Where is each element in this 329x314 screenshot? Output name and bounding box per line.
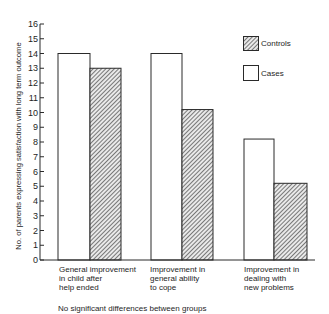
y-tick-label: 7 — [33, 152, 38, 162]
bar-controls-general-improvement — [90, 68, 121, 260]
y-tick-label: 13 — [28, 63, 38, 73]
x-category-label-1: General improvement in child after help … — [59, 265, 137, 292]
legend-label-controls: Controls — [261, 39, 291, 48]
category-label-line: Improvement in — [244, 265, 299, 274]
x-category-label-3: Improvement in dealing with new problems — [244, 265, 299, 292]
bar-cases-ability-to-cope — [151, 54, 182, 261]
y-axis: 0 1 2 3 4 5 6 7 8 9 10 11 12 13 14 15 16 — [28, 19, 44, 265]
bar-cases-new-problems — [244, 139, 274, 260]
bar-cases-general-improvement — [58, 54, 90, 261]
y-axis-title: No. of parents expressing satisfaction w… — [14, 42, 23, 249]
y-tick-label: 2 — [33, 226, 38, 236]
x-category-label-2: Improvement in general ability to cope — [150, 265, 205, 292]
bar-chart: No. of parents expressing satisfaction w… — [0, 0, 329, 314]
bar-controls-ability-to-cope — [182, 110, 213, 260]
bars — [58, 54, 307, 261]
y-tick-label: 16 — [28, 19, 38, 29]
category-label-line: to cope — [150, 283, 177, 292]
y-tick-label: 6 — [33, 167, 38, 177]
y-tick-label: 4 — [33, 196, 38, 206]
chart-annotation: No significant differences between group… — [58, 304, 206, 313]
category-label-line: in child after — [59, 274, 102, 283]
legend-swatch-controls-hatched — [244, 37, 259, 51]
y-tick-label: 3 — [33, 211, 38, 221]
category-label-line: help ended — [59, 283, 99, 292]
y-tick-label: 14 — [28, 49, 38, 59]
category-label-line: new problems — [244, 283, 294, 292]
y-tick-label: 0 — [33, 255, 38, 265]
category-label-line: General improvement — [59, 265, 137, 274]
y-tick-label: 8 — [33, 137, 38, 147]
legend-label-cases: Cases — [261, 69, 284, 78]
y-tick-label: 15 — [28, 34, 38, 44]
category-label-line: dealing with — [244, 274, 286, 283]
y-tick-label: 11 — [29, 93, 38, 103]
y-tick-label: 10 — [28, 108, 38, 118]
category-label-line: Improvement in — [150, 265, 205, 274]
y-tick-label: 5 — [33, 181, 38, 191]
y-tick-label: 9 — [33, 122, 38, 132]
y-tick-label: 1 — [33, 240, 38, 250]
y-tick-label: 12 — [28, 78, 38, 88]
bar-controls-new-problems — [274, 183, 307, 260]
category-label-line: general ability — [150, 274, 199, 283]
legend-swatch-cases-open — [244, 66, 259, 81]
legend: Controls Cases — [244, 37, 291, 81]
